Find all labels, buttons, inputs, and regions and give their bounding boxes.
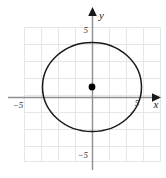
x-tick-label-5: 5: [135, 98, 140, 108]
x-tick-label-neg5: −5: [13, 100, 24, 110]
y-tick-label-neg5: −5: [77, 150, 88, 160]
graph-figure: y x 5 −5 5 −5: [0, 0, 166, 178]
center-point-marker: [89, 84, 96, 91]
y-axis-label: y: [98, 9, 104, 21]
coordinate-plane-svg: y x 5 −5 5 −5: [0, 0, 166, 178]
x-axis-label: x: [153, 98, 159, 110]
y-tick-label-5: 5: [84, 25, 89, 35]
